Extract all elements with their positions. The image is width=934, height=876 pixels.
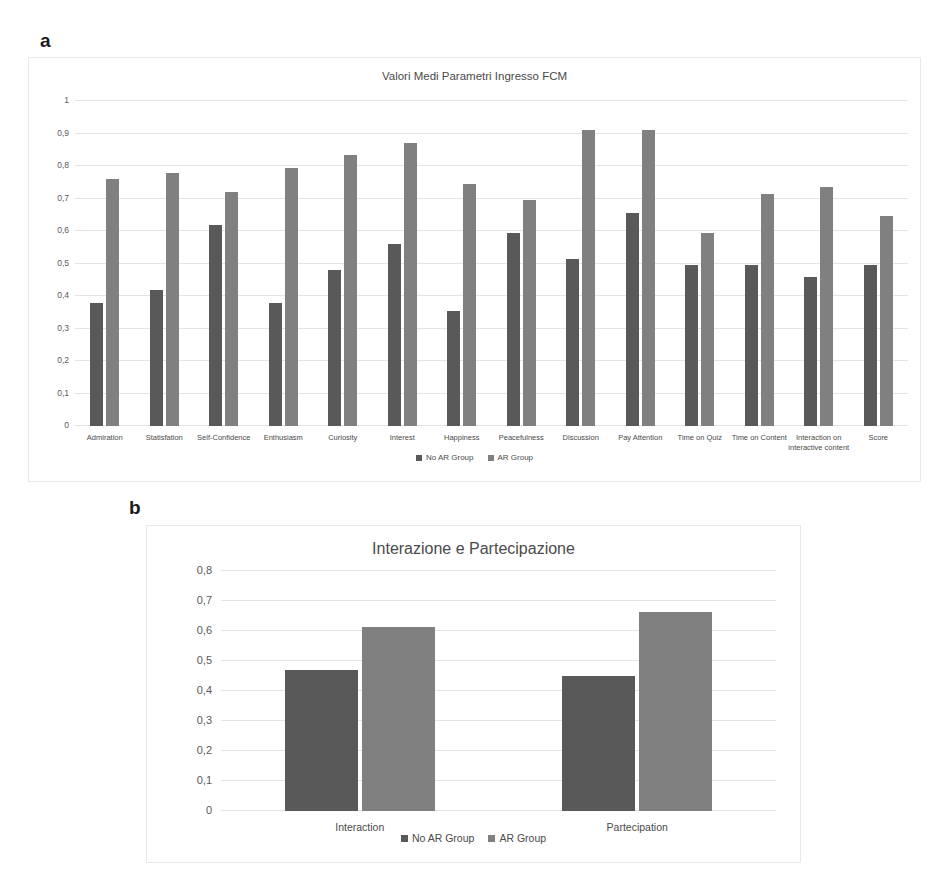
chart-a-bar [447,311,460,426]
chart-a-bar-group: Curiosity [313,101,373,426]
chart-a-legend-label: No AR Group [426,453,474,462]
legend-swatch-icon [488,455,494,461]
chart-b-bar [639,612,712,812]
chart-a-y-axis-tick: 0,3 [57,323,69,333]
chart-b-legend: No AR GroupAR Group [147,832,800,844]
chart-a-x-axis-label: Pay Attention [607,433,673,443]
chart-a-bar [388,244,401,426]
chart-a-bar [166,173,179,427]
chart-a-bar-group: Enthusiasm [254,101,314,426]
chart-b-legend-item[interactable]: AR Group [488,832,546,844]
chart-b-bar-group: Partecipation [499,571,777,811]
chart-a-bar [209,225,222,427]
chart-b-y-axis-tick: 0,7 [197,594,212,606]
chart-a-x-axis-label: Score [845,433,911,443]
chart-a-x-axis-label: Interaction on interactive content [786,433,852,453]
chart-b-y-axis-tick: 0,4 [197,684,212,696]
chart-a-bar-group: Interest [373,101,433,426]
legend-swatch-icon [416,455,422,461]
chart-a-bar-group: Pay Attention [611,101,671,426]
chart-a-bar [761,194,774,426]
chart-a-bar [582,130,595,426]
chart-a-bar [880,216,893,426]
chart-a-x-axis-label: Time on Content [726,433,792,443]
chart-a-y-axis-tick: 0,1 [57,388,69,398]
chart-a-bar-groups: AdmirationStatisfationSelf-ConfidenceEnt… [75,101,908,426]
chart-a-bar [626,213,639,426]
chart-a-legend-item[interactable]: No AR Group [416,453,474,462]
chart-a-bar [820,187,833,426]
chart-a-x-axis-label: Happiness [429,433,495,443]
legend-swatch-icon [401,835,408,842]
chart-a-bar [344,155,357,426]
chart-a-bar [804,277,817,427]
chart-b-legend-label: AR Group [499,832,546,844]
chart-a-x-axis-label: Interest [369,433,435,443]
chart-b-legend-label: No AR Group [412,832,474,844]
chart-a-y-axis-tick: 0 [64,420,69,430]
chart-a-bar [523,200,536,426]
chart-b-title: Interazione e Partecipazione [147,540,800,558]
chart-a-bar-group: Admiration [75,101,135,426]
chart-a-bar [328,270,341,426]
chart-a-bar [225,192,238,426]
chart-a-x-axis-label: Self-Confidence [191,433,257,443]
chart-a-y-axis-tick: 0,7 [57,193,69,203]
chart-a-bar [404,143,417,426]
chart-b-bar-groups: InteractionPartecipation [221,571,776,811]
chart-b-bar [362,627,435,812]
chart-a-y-axis-tick: 0,2 [57,355,69,365]
chart-panel-a: Valori Medi Parametri Ingresso FCM 00,10… [28,57,921,482]
chart-b-legend-item[interactable]: No AR Group [401,832,474,844]
chart-a-bar-group: Time on Quiz [670,101,730,426]
chart-a-bar-group: Score [849,101,909,426]
chart-a-bar [90,303,103,427]
chart-a-legend-item[interactable]: AR Group [488,453,534,462]
chart-a-x-axis-label: Time on Quiz [667,433,733,443]
chart-a-x-axis-label: Enthusiasm [250,433,316,443]
chart-a-bar-group: Time on Content [730,101,790,426]
chart-b-bar [285,670,358,811]
chart-a-y-axis-tick: 0,8 [57,160,69,170]
legend-swatch-icon [488,835,495,842]
chart-a-x-axis-label: Statisfation [131,433,197,443]
chart-a-bar [285,168,298,426]
chart-a-bar [463,184,476,426]
chart-a-bar-group: Happiness [432,101,492,426]
chart-a-bar [269,303,282,427]
chart-a-y-axis-tick: 0,5 [57,258,69,268]
chart-a-bar [685,265,698,426]
chart-b-y-axis-tick: 0,1 [197,774,212,786]
chart-a-x-axis-label: Discussion [548,433,614,443]
chart-panel-b: Interazione e Partecipazione 00,10,20,30… [146,525,801,863]
chart-a-y-axis-tick: 0,6 [57,225,69,235]
panel-b-label: b [129,497,141,519]
chart-a-bar-group: Statisfation [135,101,195,426]
chart-a-x-axis-label: Curiosity [310,433,376,443]
chart-a-bar-group: Discussion [551,101,611,426]
chart-a-bar [745,265,758,426]
chart-a-y-axis-tick: 0,9 [57,128,69,138]
chart-a-plot-area: 00,10,20,30,40,50,60,70,80,91 Admiration… [75,101,908,426]
chart-a-bar [642,130,655,426]
chart-a-bar [566,259,579,426]
chart-a-bar-group: Interaction on interactive content [789,101,849,426]
chart-a-title: Valori Medi Parametri Ingresso FCM [29,70,920,82]
chart-a-bar-group: Self-Confidence [194,101,254,426]
chart-a-legend: No AR GroupAR Group [29,453,920,462]
chart-b-plot-area: 00,10,20,30,40,50,60,70,8 InteractionPar… [221,571,776,811]
chart-a-x-axis-label: Admiration [72,433,138,443]
chart-a-bar [507,233,520,426]
panel-a-label: a [40,30,51,52]
chart-b-bar [562,676,635,811]
chart-b-y-axis-tick: 0 [206,804,212,816]
chart-b-y-axis-tick: 0,8 [197,564,212,576]
chart-a-bar-group: Peacefulness [492,101,552,426]
chart-a-y-axis-tick: 1 [64,95,69,105]
chart-a-bar [864,265,877,426]
chart-a-bar [150,290,163,427]
chart-b-bar-group: Interaction [221,571,499,811]
chart-a-legend-label: AR Group [498,453,534,462]
chart-b-y-axis-tick: 0,5 [197,654,212,666]
chart-b-y-axis-tick: 0,3 [197,714,212,726]
